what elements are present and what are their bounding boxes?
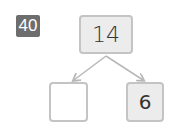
arrow-right-icon [106, 56, 143, 80]
part-box-known: 6 [126, 82, 164, 122]
arrow-left-icon [74, 56, 106, 80]
whole-box: 14 [79, 15, 133, 54]
part-box-empty[interactable] [49, 82, 88, 122]
